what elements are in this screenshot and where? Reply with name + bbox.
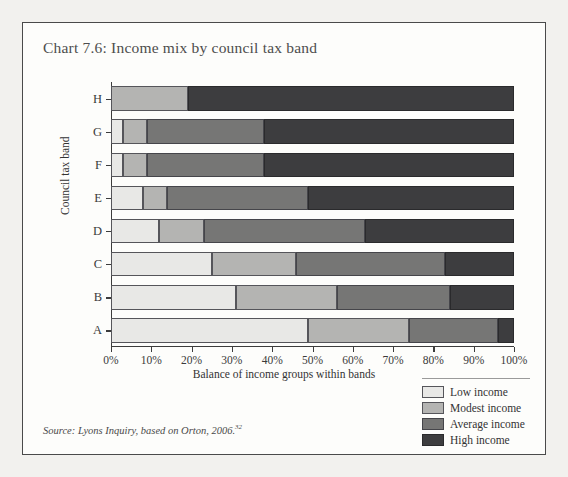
x-axis-tick <box>272 347 273 352</box>
y-axis-tick-label: G <box>93 124 102 139</box>
source-footnote: 32 <box>235 423 242 431</box>
bar-segment <box>450 285 514 310</box>
bar-segment <box>111 153 123 178</box>
x-axis-tick-label: 10% <box>141 354 162 366</box>
bar-row <box>111 153 514 178</box>
bar-segment <box>111 285 236 310</box>
y-axis-tick <box>106 330 111 331</box>
x-axis-tick <box>353 347 354 352</box>
bar-segment <box>337 285 450 310</box>
x-axis-tick-label: 60% <box>342 354 363 366</box>
plot-area: HGFEDCBA 0%10%20%30%40%50%60%70%80%90%10… <box>111 82 514 347</box>
x-axis-tick-label: 80% <box>423 354 444 366</box>
legend-label: Modest income <box>450 402 521 414</box>
chart-panel: Chart 7.6: Income mix by council tax ban… <box>22 22 546 455</box>
bar-segment <box>409 318 498 343</box>
bar-segment <box>498 318 514 343</box>
bar-row <box>111 285 514 310</box>
y-axis-tick <box>106 297 111 298</box>
legend: Low incomeModest incomeAverage incomeHig… <box>422 378 530 449</box>
legend-label: High income <box>450 434 510 446</box>
y-axis-tick <box>106 99 111 100</box>
legend-item: Low income <box>422 385 530 398</box>
x-axis-tick <box>151 347 152 352</box>
bar-segment <box>111 119 123 144</box>
bar-segment <box>236 285 337 310</box>
x-axis-tick-label: 40% <box>262 354 283 366</box>
bar-segment <box>123 153 147 178</box>
y-axis-tick-label: D <box>93 224 102 239</box>
bar-segment <box>308 186 514 211</box>
y-axis-tick-label: C <box>94 257 102 272</box>
y-axis-tick-label: F <box>95 157 102 172</box>
bar-segment <box>111 186 143 211</box>
bar-segment <box>159 219 203 244</box>
x-axis-tick-label: 100% <box>501 354 528 366</box>
bar-segment <box>365 219 514 244</box>
bar-segment <box>308 318 409 343</box>
bar-segment <box>167 186 308 211</box>
legend-swatch <box>422 434 444 446</box>
bar-row <box>111 119 514 144</box>
x-axis-tick-label: 20% <box>181 354 202 366</box>
x-axis-tick-label: 0% <box>103 354 118 366</box>
legend-label: Low income <box>450 386 508 398</box>
bar-row <box>111 252 514 277</box>
bar-segment <box>212 252 297 277</box>
bar-segment <box>264 119 514 144</box>
y-axis-tick <box>106 264 111 265</box>
source-note: Source: Lyons Inquiry, based on Orton, 2… <box>43 423 242 436</box>
y-axis-tick-label: H <box>93 91 102 106</box>
x-axis-tick-label: 50% <box>302 354 323 366</box>
y-axis-tick <box>106 165 111 166</box>
y-axis-tick <box>106 231 111 232</box>
bar-segment <box>445 252 514 277</box>
x-axis-tick <box>393 347 394 352</box>
x-axis-tick-label: 30% <box>221 354 242 366</box>
legend-label: Average income <box>450 418 525 430</box>
legend-item: Average income <box>422 417 530 430</box>
bar-segment <box>147 119 264 144</box>
x-axis-tick-label: 70% <box>383 354 404 366</box>
x-axis-tick <box>192 347 193 352</box>
y-axis-tick-label: A <box>93 323 102 338</box>
legend-swatch <box>422 386 444 398</box>
bar-segment <box>204 219 365 244</box>
x-axis-tick <box>433 347 434 352</box>
y-axis-tick <box>106 132 111 133</box>
bar-row <box>111 219 514 244</box>
legend-item: High income <box>422 433 530 446</box>
bar-row <box>111 318 514 343</box>
legend-swatch <box>422 402 444 414</box>
bar-segment <box>111 252 212 277</box>
page-title: Chart 7.6: Income mix by council tax ban… <box>43 39 317 57</box>
bar-segment <box>188 86 514 111</box>
x-axis-tick <box>474 347 475 352</box>
bar-segment <box>264 153 514 178</box>
bar-segment <box>111 318 308 343</box>
bar-segment <box>123 119 147 144</box>
x-axis-tick <box>111 347 112 352</box>
bar-segment <box>111 86 188 111</box>
bar-segment <box>111 219 159 244</box>
y-axis-label: Council tax band <box>59 136 71 215</box>
bar-segment <box>143 186 167 211</box>
x-axis-tick <box>232 347 233 352</box>
x-axis-tick <box>514 347 515 352</box>
y-axis-tick-label: E <box>94 190 102 205</box>
bar-segment <box>147 153 264 178</box>
bar-row <box>111 186 514 211</box>
y-axis-tick <box>106 198 111 199</box>
legend-item: Modest income <box>422 401 530 414</box>
x-axis-tick-label: 90% <box>463 354 484 366</box>
bar-segment <box>296 252 445 277</box>
legend-swatch <box>422 418 444 430</box>
source-text: Source: Lyons Inquiry, based on Orton, 2… <box>43 425 235 436</box>
y-axis-tick-label: B <box>94 290 102 305</box>
x-axis-tick <box>313 347 314 352</box>
bar-row <box>111 86 514 111</box>
